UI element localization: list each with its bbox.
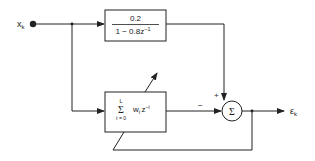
input-to-adaptive-filter-line [72, 24, 104, 111]
summer-symbol: Σ [229, 106, 235, 117]
minus-sign: − [198, 101, 203, 110]
plus-sign: + [214, 91, 219, 100]
block-diagram: xk 0.2 1 − 0.8z−1 L Σ ℓ = 0 wℓz−ℓ Σ + − [0, 0, 315, 161]
summing-junction: Σ [222, 101, 242, 121]
fixed-filter-block: 0.2 1 − 0.8z−1 [105, 10, 166, 41]
output-label: εk [290, 106, 298, 117]
sum-lower-limit: ℓ = 0 [116, 115, 126, 121]
adaptation-arrow [145, 73, 157, 92]
adaptive-filter-block: L Σ ℓ = 0 wℓz−ℓ [105, 92, 166, 132]
fixed-filter-numerator: 0.2 [130, 14, 142, 23]
desired-signal-line [166, 24, 224, 100]
sum-symbol: Σ [118, 104, 124, 115]
input-label: xk [17, 19, 26, 30]
